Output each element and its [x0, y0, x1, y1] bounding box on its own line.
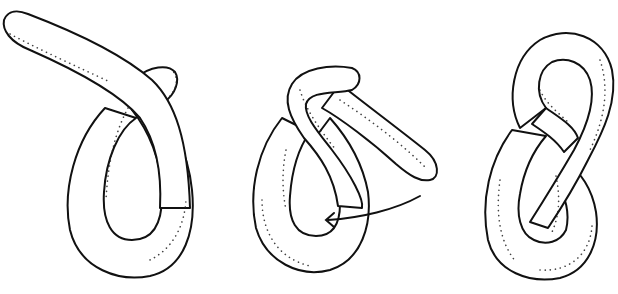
- knot-diagram: [0, 0, 618, 294]
- stage-1-loop: [4, 12, 193, 278]
- stage-3-figure-eight: [485, 33, 613, 279]
- stage-2-tuck: [253, 67, 437, 272]
